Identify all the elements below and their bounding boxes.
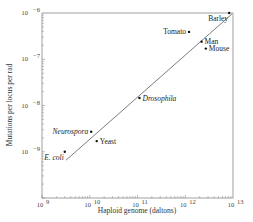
data-point-barley: Barley (208, 12, 230, 23)
svg-text:12: 12 (189, 198, 196, 205)
data-point-yeast: Yeast (96, 137, 117, 146)
trend-line (66, 14, 232, 160)
x-tick-label: 10 (228, 201, 235, 208)
x-tick-label: 10 (180, 201, 187, 208)
svg-text:−7: −7 (33, 52, 41, 59)
point-label: Drosophila (141, 94, 176, 103)
svg-text:13: 13 (237, 198, 244, 205)
svg-text:−8: −8 (33, 99, 40, 106)
y-tick-label: 10 (22, 102, 29, 109)
y-tick-label: 10 (22, 55, 29, 62)
point-label: Yeast (100, 137, 117, 146)
data-point-e-coli: E. coli (43, 151, 66, 162)
point-marker (188, 31, 190, 33)
x-tick-label: 10 (85, 201, 92, 208)
point-label: Tomato (163, 27, 186, 36)
point-label: Mouse (209, 44, 230, 53)
point-label: E. coli (43, 153, 64, 162)
svg-text:−6: −6 (33, 6, 41, 13)
data-point-neurospora: Neurospora (52, 127, 93, 136)
svg-text:10: 10 (94, 198, 101, 205)
point-marker (205, 47, 207, 49)
x-tick-label: 10 (37, 201, 44, 208)
data-point-drosophila: Drosophila (138, 94, 176, 103)
data-point-tomato: Tomato (163, 27, 190, 36)
svg-text:11: 11 (142, 198, 148, 205)
point-label: Barley (208, 14, 228, 23)
point-marker (138, 97, 140, 99)
svg-text:9: 9 (46, 198, 49, 205)
point-marker (200, 40, 202, 42)
point-marker (228, 12, 230, 14)
y-tick-label: 10 (22, 148, 29, 155)
point-marker (90, 131, 92, 133)
data-point-mouse: Mouse (205, 44, 230, 53)
chart: 10−610−710−810−9 1091010101110121013 E. … (0, 0, 253, 222)
x-axis-label: Haploid genome (daltons) (98, 206, 177, 215)
y-axis-label: Mutations per locus per rad (5, 64, 14, 147)
y-axis-tick-labels: 10−610−710−810−9 (22, 6, 41, 155)
x-axis-minor-ticks (42, 195, 231, 198)
data-points: E. coliNeurosporaYeastDrosophilaTomatoMa… (43, 12, 230, 162)
y-axis-minor-ticks (42, 15, 45, 198)
svg-text:−9: −9 (33, 145, 40, 152)
y-tick-label: 10 (22, 9, 29, 16)
point-label: Neurospora (52, 127, 89, 136)
point-marker (64, 151, 66, 153)
point-marker (96, 140, 98, 142)
